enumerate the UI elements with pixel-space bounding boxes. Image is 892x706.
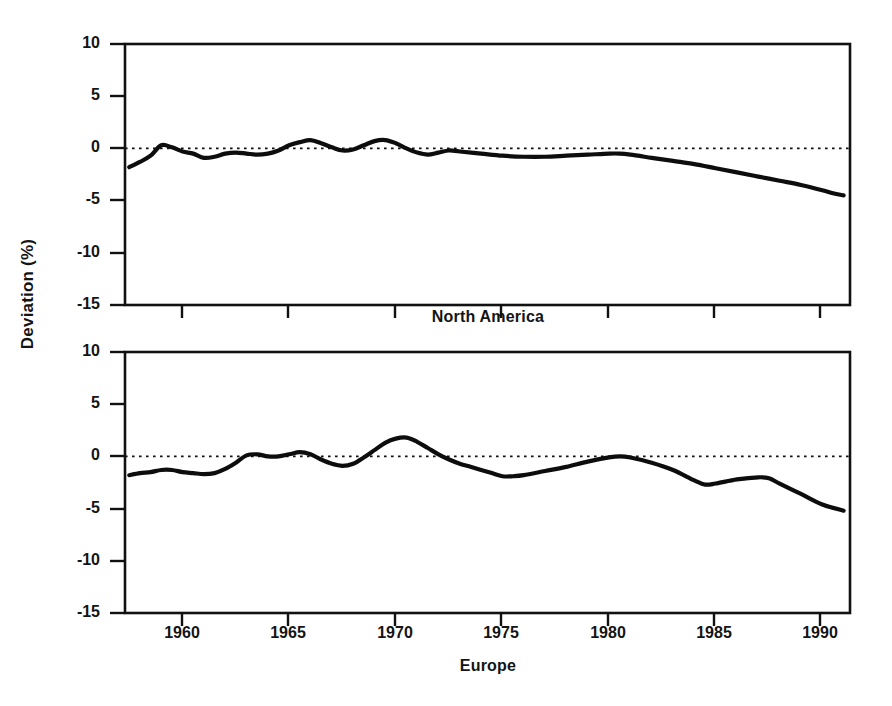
y-tickmarks-north-america [110, 44, 125, 305]
ytick-label-bottom-m5: -5 [46, 499, 100, 517]
ytick-label-top-10: 10 [46, 34, 100, 52]
figure-canvas: Deviation (%) 10 5 0 -5 -10 -15 Nort [0, 0, 892, 706]
data-line-europe [129, 437, 843, 510]
ytick-label-top-m15: -15 [46, 295, 100, 313]
xtick-label-1980: 1980 [573, 624, 643, 642]
xtick-label-1990: 1990 [785, 624, 855, 642]
ytick-label-top-5: 5 [46, 86, 100, 104]
ytick-label-top-m10: -10 [46, 243, 100, 261]
ytick-label-top-m5: -5 [46, 190, 100, 208]
y-tickmarks-europe [110, 352, 125, 613]
xtick-label-1970: 1970 [360, 624, 430, 642]
plot-frame-europe [125, 352, 850, 613]
chart-panel-europe [0, 344, 892, 674]
xtick-label-1985: 1985 [679, 624, 749, 642]
xtick-label-1960: 1960 [147, 624, 217, 642]
xtick-label-1975: 1975 [466, 624, 536, 642]
panel-caption-europe: Europe [338, 657, 638, 675]
ytick-label-bottom-5: 5 [46, 394, 100, 412]
panel-caption-north-america: North America [338, 308, 638, 326]
ytick-label-bottom-10: 10 [46, 342, 100, 360]
ytick-label-bottom-m15: -15 [46, 603, 100, 621]
xtick-label-1965: 1965 [253, 624, 323, 642]
ytick-label-bottom-m10: -10 [46, 551, 100, 569]
ytick-label-top-0: 0 [46, 138, 100, 156]
chart-panel-north-america [0, 0, 892, 330]
ytick-label-bottom-0: 0 [46, 446, 100, 464]
